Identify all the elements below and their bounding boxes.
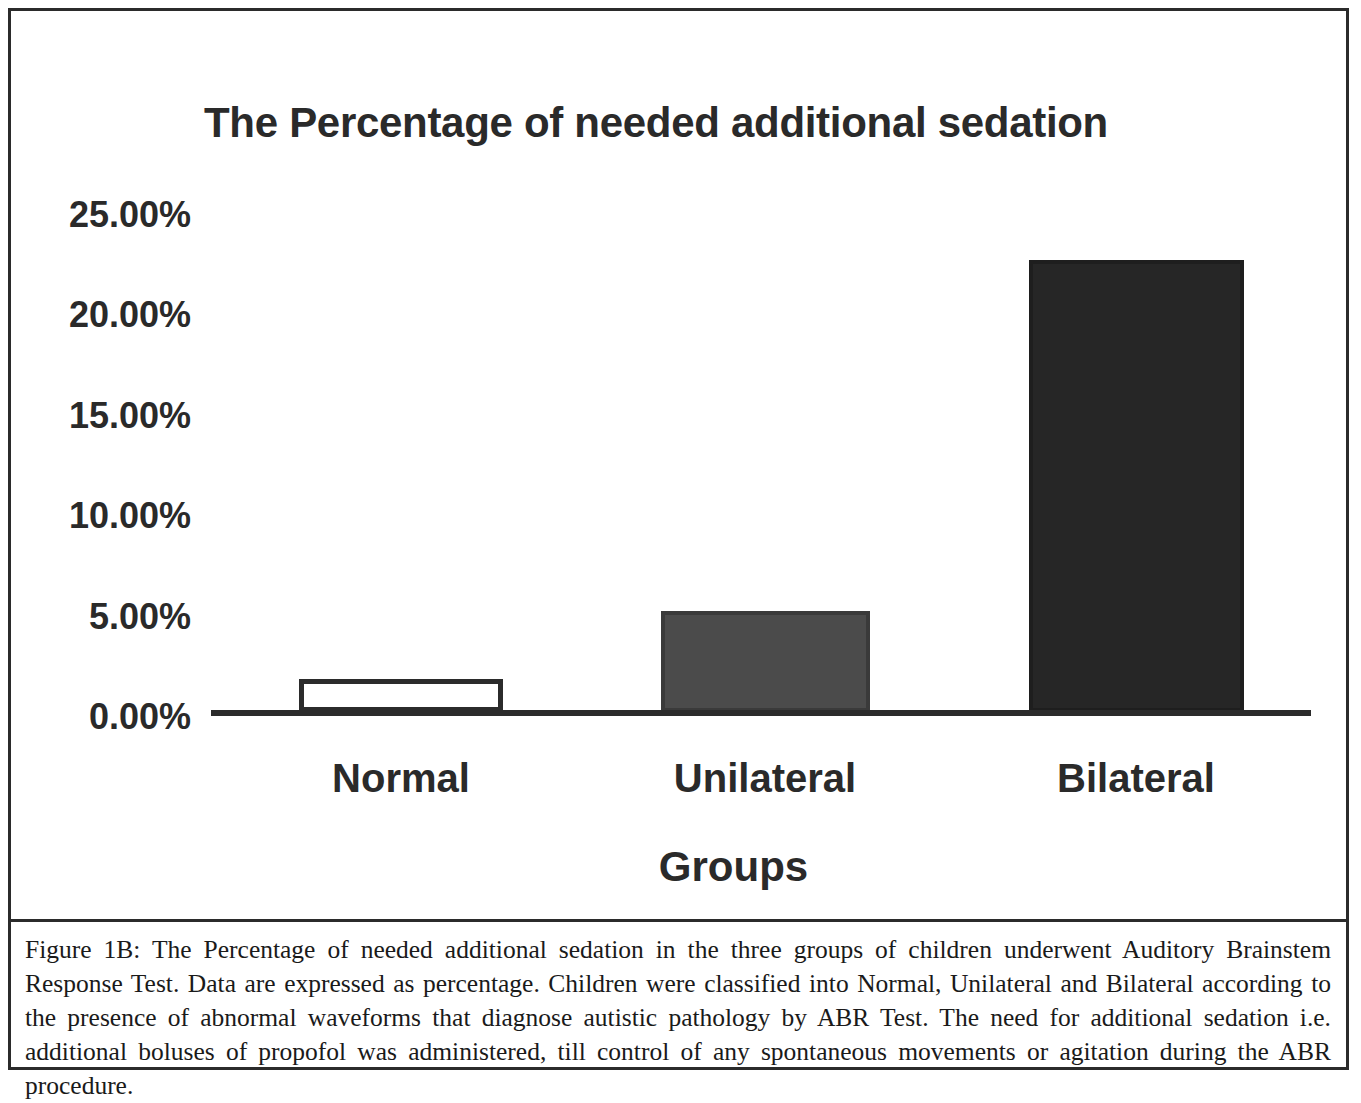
figure-frame: The Percentage of needed additional seda… <box>8 8 1349 1070</box>
caption-divider <box>11 919 1346 922</box>
x-tick-label-unilateral: Unilateral <box>665 756 865 801</box>
x-tick-label-normal: Normal <box>301 756 501 801</box>
x-axis-title: Groups <box>211 843 1256 891</box>
x-tick-label-bilateral: Bilateral <box>1036 756 1236 801</box>
figure-caption: Figure 1B: The Percentage of needed addi… <box>25 933 1331 1103</box>
bars-layer <box>11 11 1346 712</box>
bar-bilateral[interactable] <box>1029 260 1244 712</box>
bar-unilateral[interactable] <box>661 611 870 712</box>
chart-panel: The Percentage of needed additional seda… <box>11 11 1346 919</box>
bar-normal[interactable] <box>299 679 503 712</box>
plot-area: 25.00% 20.00% 15.00% 10.00% 5.00% 0.00% … <box>11 11 1346 771</box>
category-axis-line <box>211 710 1311 716</box>
